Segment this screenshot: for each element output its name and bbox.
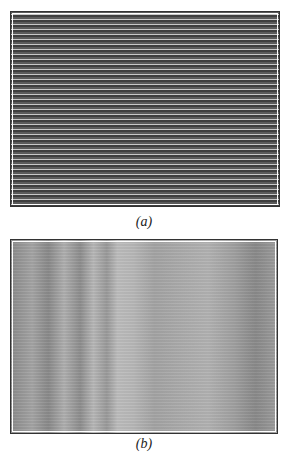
figure-panel-a-image — [10, 11, 280, 207]
panel-b-caption: (b) — [124, 436, 164, 452]
figure-panel-b-image — [10, 239, 278, 434]
panel-a-caption: (a) — [124, 214, 164, 230]
